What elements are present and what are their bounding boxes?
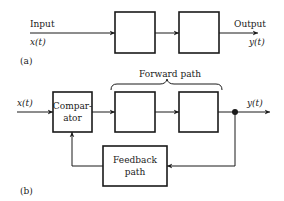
comparator-label-line1: Compar-: [53, 101, 92, 111]
caption-a: (a): [20, 56, 32, 66]
feedback-label-line2: path: [125, 167, 146, 177]
input-label: Input: [30, 19, 55, 29]
comparator-block: [53, 92, 92, 132]
forward-path-label: Forward path: [139, 69, 201, 79]
feedback-label-line1: Feedback: [113, 155, 157, 165]
block-1: [115, 12, 155, 53]
block-diagram: Input x(t) Output y(t) (a) Forward path …: [0, 0, 284, 201]
feedback-block: [103, 146, 167, 186]
forward-block-1: [115, 92, 155, 132]
open-loop-system: Input x(t) Output y(t) (a): [20, 12, 266, 66]
feedback-arrow-out: [72, 132, 103, 166]
comparator-label-line2: ator: [63, 113, 82, 123]
closed-loop-system: Forward path x(t) Compar- ator y(t) Feed…: [17, 69, 270, 196]
input-signal-label: x(t): [30, 37, 46, 47]
block-2: [179, 12, 219, 53]
forward-block-2: [179, 92, 218, 132]
output-label: Output: [234, 19, 266, 29]
caption-b: (b): [20, 186, 33, 196]
forward-path-brace: [111, 79, 222, 90]
input-signal-label-b: x(t): [17, 98, 33, 108]
output-signal-label-b: y(t): [246, 98, 263, 108]
output-signal-label: y(t): [248, 37, 265, 47]
